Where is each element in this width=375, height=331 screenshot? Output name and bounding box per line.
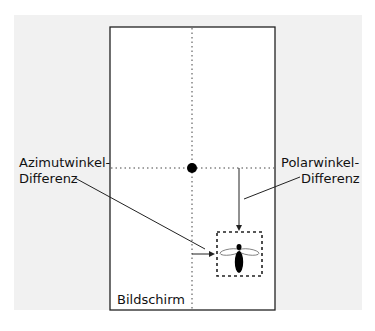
- left-label-line2: Differenz: [19, 171, 78, 186]
- fixation-dot: [187, 163, 197, 173]
- screen-label: Bildschirm: [117, 292, 185, 307]
- right-label-line1: Polarwinkel-: [281, 155, 359, 170]
- left-label-line1: Azimutwinkel-: [19, 155, 110, 170]
- right-label-line2: Differenz: [301, 171, 360, 186]
